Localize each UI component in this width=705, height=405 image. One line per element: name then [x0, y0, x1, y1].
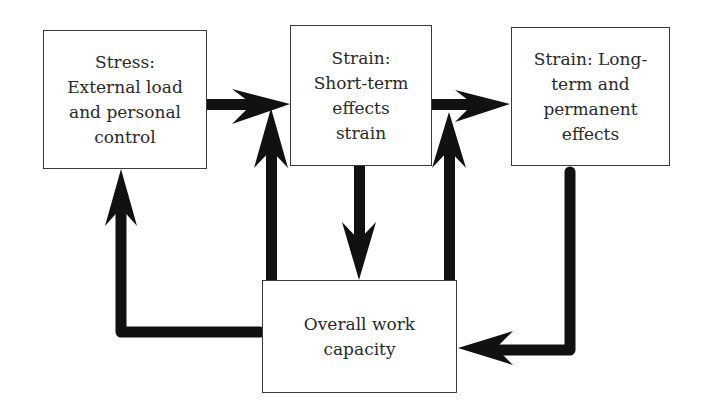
node-long-term-label: Strain: Long- term and permanent effects [534, 47, 647, 147]
arrow-long-term-to-capacity [458, 172, 570, 365]
node-long-term-strain: Strain: Long- term and permanent effects [511, 27, 670, 166]
arrow-capacity-to-stress [105, 169, 260, 332]
node-work-capacity: Overall work capacity [262, 280, 457, 393]
diagram-canvas: Stress: External load and personal contr… [0, 0, 705, 405]
node-short-term-strain: Strain: Short-term effects strain [290, 25, 432, 166]
arrow-stress-to-short-term [206, 89, 290, 124]
node-short-term-label: Strain: Short-term effects strain [314, 46, 409, 146]
arrow-short-term-to-long-term [431, 90, 510, 122]
arrow-capacity-to-long-term [432, 112, 466, 281]
node-stress-label: Stress: External load and personal contr… [67, 50, 183, 150]
arrow-capacity-to-short-term [254, 108, 288, 281]
arrow-short-term-to-capacity [342, 165, 376, 280]
node-capacity-label: Overall work capacity [304, 312, 415, 362]
node-stress: Stress: External load and personal contr… [43, 30, 207, 169]
